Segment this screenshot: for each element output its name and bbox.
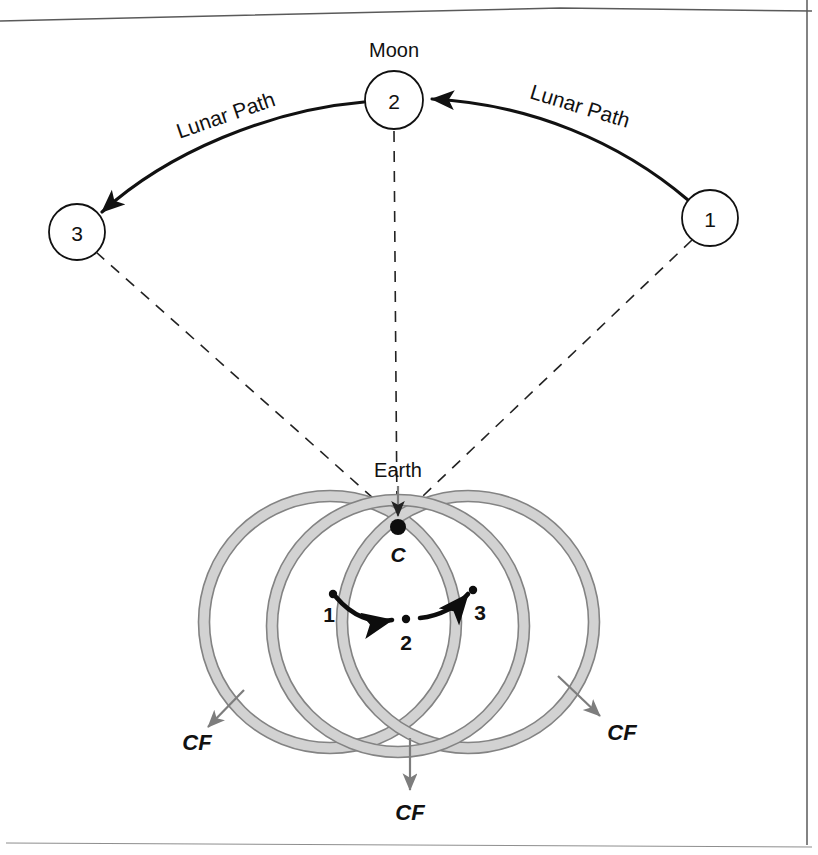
moon-node-3-label: 3 <box>71 222 83 245</box>
frame-bottom-edge <box>6 843 812 847</box>
motion-point-2-dot <box>402 615 410 623</box>
lunar-path-label-right: Lunar Path <box>528 80 633 132</box>
dashed-radius-lines <box>96 131 692 514</box>
dashed-line-node2-to-center <box>394 131 397 512</box>
moon-title: Moon <box>369 39 419 61</box>
motion-point-1-label: 1 <box>323 603 335 626</box>
cf-label-left: CF <box>182 730 212 755</box>
lunar-earth-diagram: Moon 2 1 3 Lunar Path Lunar Path <box>0 0 818 855</box>
motion-point-2-label: 2 <box>400 631 412 654</box>
figure-page: Moon 2 1 3 Lunar Path Lunar Path <box>0 0 818 855</box>
dashed-line-node3-to-center <box>96 252 391 514</box>
moon-node-2-label: 2 <box>388 90 400 113</box>
earth-center-label: C <box>390 543 406 566</box>
lunar-path-label-left: Lunar Path <box>173 87 278 142</box>
lunar-path-arc-right <box>432 99 688 200</box>
cf-label-right: CF <box>607 720 637 745</box>
cf-label-bottom: CF <box>395 800 425 825</box>
dashed-line-node1-to-center <box>404 240 692 514</box>
moon-node-1-label: 1 <box>704 208 716 231</box>
earth-ring-middle-inner-edge <box>278 506 519 747</box>
earth-title: Earth <box>374 459 422 481</box>
moon-nodes: Moon 2 1 3 <box>49 39 738 260</box>
motion-point-1-dot <box>329 590 337 598</box>
motion-point-3-dot <box>469 586 477 594</box>
earth-center-dot <box>390 519 406 535</box>
earth-ring-middle-band <box>272 500 524 752</box>
frame-top-edge <box>0 8 812 21</box>
motion-point-3-label: 3 <box>474 601 486 624</box>
